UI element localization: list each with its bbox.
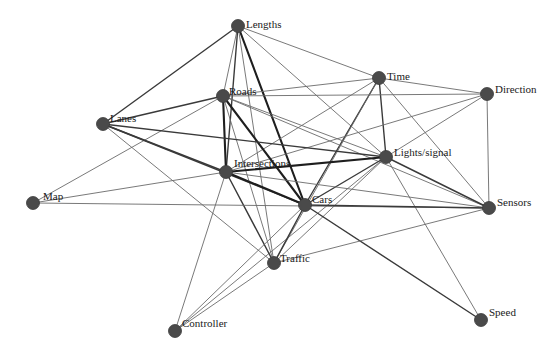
node-label: Direction bbox=[495, 83, 537, 95]
edge-cars-controller bbox=[175, 205, 305, 331]
node-intersections: Intersections bbox=[220, 157, 291, 179]
nodes-layer: LengthsTimeDirectionRoadsLanesLights/sig… bbox=[27, 18, 538, 338]
edge-direction-sensors bbox=[487, 94, 489, 208]
node-label: Sensors bbox=[497, 196, 531, 208]
node-circle bbox=[220, 166, 233, 179]
node-circle bbox=[268, 257, 281, 270]
edge-time-sensors bbox=[379, 78, 489, 208]
node-label: Intersections bbox=[234, 157, 290, 169]
edges-layer bbox=[33, 26, 489, 331]
node-label: Time bbox=[387, 70, 410, 82]
edge-intersections-controller bbox=[175, 172, 226, 331]
node-circle bbox=[27, 197, 40, 210]
edge-lengths-lanes bbox=[103, 26, 238, 124]
node-label: Lights/signal bbox=[394, 146, 451, 158]
node-circle bbox=[481, 88, 494, 101]
node-circle bbox=[475, 314, 488, 327]
node-lights: Lights/signal bbox=[380, 146, 452, 164]
node-direction: Direction bbox=[481, 83, 538, 101]
node-traffic: Traffic bbox=[268, 252, 311, 270]
node-label: Cars bbox=[312, 193, 332, 205]
edge-lights-sensors bbox=[386, 157, 489, 208]
node-circle bbox=[483, 202, 496, 215]
node-label: Lanes bbox=[110, 112, 136, 124]
network-diagram: LengthsTimeDirectionRoadsLanesLights/sig… bbox=[0, 0, 554, 355]
edge-intersections-sensors bbox=[226, 172, 489, 208]
node-circle bbox=[373, 72, 386, 85]
edge-lanes-traffic bbox=[103, 124, 274, 263]
node-sensors: Sensors bbox=[483, 196, 532, 215]
edge-cars-speed bbox=[305, 205, 481, 320]
node-circle bbox=[97, 118, 110, 131]
node-circle bbox=[217, 90, 230, 103]
node-time: Time bbox=[373, 70, 410, 85]
node-label: Traffic bbox=[280, 252, 310, 264]
edge-lights-controller bbox=[175, 157, 386, 331]
node-controller: Controller bbox=[169, 317, 228, 338]
node-label: Speed bbox=[489, 306, 516, 318]
node-circle bbox=[169, 325, 182, 338]
node-label: Controller bbox=[182, 317, 228, 329]
node-label: Lengths bbox=[246, 18, 281, 30]
node-circle bbox=[299, 199, 312, 212]
node-cars: Cars bbox=[299, 193, 333, 212]
node-speed: Speed bbox=[475, 306, 517, 327]
node-lengths: Lengths bbox=[232, 18, 282, 33]
node-circle bbox=[232, 20, 245, 33]
node-label: Roads bbox=[229, 85, 257, 97]
node-roads: Roads bbox=[217, 85, 257, 103]
node-label: Map bbox=[43, 190, 64, 202]
edge-time-lights bbox=[379, 78, 386, 157]
edge-roads-intersections bbox=[223, 96, 226, 172]
node-map: Map bbox=[27, 190, 64, 210]
edge-lengths-time bbox=[238, 26, 379, 78]
node-circle bbox=[380, 151, 393, 164]
